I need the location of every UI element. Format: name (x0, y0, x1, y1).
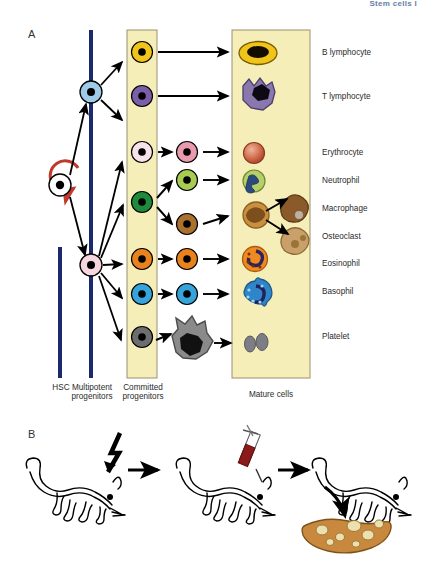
arrow-cp-megakaryocyte-to-pre (156, 334, 171, 340)
arrow-mpp-to-cp-megakaryocyte (99, 276, 121, 340)
label-basophil: Basophil (322, 287, 353, 296)
column-header-committed-line2: progenitors (114, 392, 172, 401)
column-header-mature: Mature cells (232, 390, 310, 399)
arrow-hsc-to-lymphoid-mpp (70, 104, 86, 175)
cp-granulocyte-monocyte-cell (132, 192, 153, 213)
arrow-pre-to-monocyte (203, 216, 228, 224)
syringe-icon (238, 425, 262, 482)
mouse-reconstituted-icon (312, 458, 411, 524)
cp-basophil-cell (132, 284, 153, 305)
label-platelet: Platelet (322, 332, 349, 341)
label-macrophage: Macrophage (322, 204, 368, 213)
pre-basophil-cell (177, 284, 198, 305)
mpp-myeloid-cell (80, 254, 102, 276)
mature-erythrocyte (244, 143, 265, 164)
label-osteoclast: Osteoclast (322, 232, 361, 241)
mature-eosinophil (243, 247, 268, 272)
arrow-mpp-to-cp-b (101, 62, 122, 85)
spleen-icon (302, 519, 391, 553)
mature-neutrophil (243, 170, 265, 193)
label-erythrocyte: Erythrocyte (322, 148, 363, 157)
cp-erythroid-cell (132, 142, 153, 163)
mouse-injected-icon (176, 458, 275, 524)
pre-monocyte-cell (177, 214, 198, 235)
mouse-eye-3 (393, 494, 399, 500)
label-t-lymphocyte: T lymphocyte (322, 92, 371, 101)
arrow-hsc-to-myeloid-mpp (70, 197, 85, 255)
label-neutrophil: Neutrophil (322, 176, 359, 185)
cp-eosinophil-cell (132, 249, 153, 270)
column-header-committed: Committed progenitors (114, 383, 172, 402)
arrow-cp-gm-to-pre-monocyte (157, 207, 172, 224)
cp-megakaryocyte-cell (132, 327, 153, 348)
pre-eosinophil-cell (177, 249, 198, 270)
column-header-multipotent: Multipotent progenitors (62, 383, 122, 402)
cp-b-cell (132, 42, 153, 63)
pre-neutrophil-cell (177, 170, 198, 191)
label-b-lymphocyte: B lymphocyte (322, 48, 371, 57)
arrow-cp-gm-to-pre-neutrophil (157, 181, 172, 198)
mature-t-lymphocyte (243, 78, 275, 110)
label-eosinophil: Eosinophil (322, 259, 360, 268)
pre-megakaryocyte-cell (172, 316, 213, 359)
arrow-mpp-to-cp-basophil (101, 273, 122, 298)
mpp-lymphoid-cell (80, 81, 102, 103)
panel-a-graphic (0, 0, 423, 400)
column-header-multipotent-line1: Multipotent (62, 383, 122, 392)
column-header-committed-line1: Committed (114, 383, 172, 392)
column-header-multipotent-line2: progenitors (62, 392, 122, 401)
figure-root: Stem cells I A (0, 0, 423, 565)
hsc-cell (49, 174, 71, 196)
mouse-eye-2 (257, 494, 263, 500)
arrow-mpp-to-cp-t (101, 100, 122, 120)
mouse-eye-1 (107, 494, 113, 500)
mature-monocyte (243, 202, 269, 228)
arrow-mpp-to-cp-erythroid (99, 162, 122, 256)
cp-t-cell (132, 86, 153, 107)
mature-b-lymphocyte (239, 42, 277, 65)
arrow-mpp-to-cp-eosinophil (103, 264, 122, 265)
pre-erythroblast-cell (177, 142, 198, 163)
panel-b-graphic (0, 420, 423, 565)
